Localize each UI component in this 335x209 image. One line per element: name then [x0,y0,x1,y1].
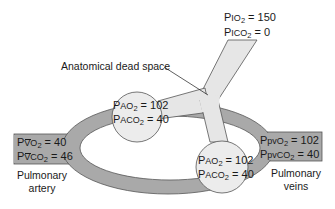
trachea-airway [200,40,257,100]
mixed-venous-po2-label: PVO2 = 40 [17,136,66,149]
inspired-po2-label: PIO2 = 150 [224,11,276,24]
inspired-pco2-label: PICO2 = 0 [224,26,270,39]
right-alveolus-pco2-label: PACO2 = 40 [198,168,254,181]
ventilation-perfusion-diagram: PIO2 = 150 PICO2 = 0 Anatomical dead spa… [0,0,335,209]
anatomical-dead-space-label: Anatomical dead space [61,60,170,72]
mixed-venous-pco2-label: PVCO2 = 46 [17,150,73,163]
pulmonary-artery-caption: Pulmonaryartery [12,169,72,195]
dead-space-leader-line [164,67,208,95]
pulmonary-veins-caption: Pulmonaryveins [266,167,326,193]
pulmonary-vein-pco2-label: PpvCO2 = 40 [260,148,319,161]
right-alveolus-po2-label: PAO2 = 102 [198,154,253,167]
pulmonary-vein-po2-label: PpvO2 = 102 [260,134,319,147]
left-alveolus-pco2-label: PACO2 = 40 [113,113,169,126]
left-alveolus-po2-label: PAO2 = 102 [113,99,168,112]
